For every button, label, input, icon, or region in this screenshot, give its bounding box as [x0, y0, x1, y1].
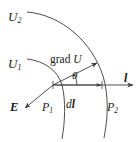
physics-diagram-figure: U2 U1 grad U θ l E P1 dl P2: [0, 0, 139, 142]
label-e-vector: E: [10, 101, 18, 114]
label-point-p2: P2: [107, 101, 118, 113]
label-dl-segment: dl: [66, 99, 75, 111]
label-point-p1: P1: [42, 101, 53, 113]
label-equipotential-u1: U1: [8, 57, 21, 70]
equipotential-curve-u1: [27, 59, 65, 139]
equipotential-curve-u2: [27, 12, 107, 138]
label-equipotential-u2: U2: [8, 10, 21, 23]
label-l-vector: l: [124, 72, 127, 84]
label-angle-theta: θ: [72, 70, 77, 81]
label-grad-u: grad U: [50, 54, 82, 66]
